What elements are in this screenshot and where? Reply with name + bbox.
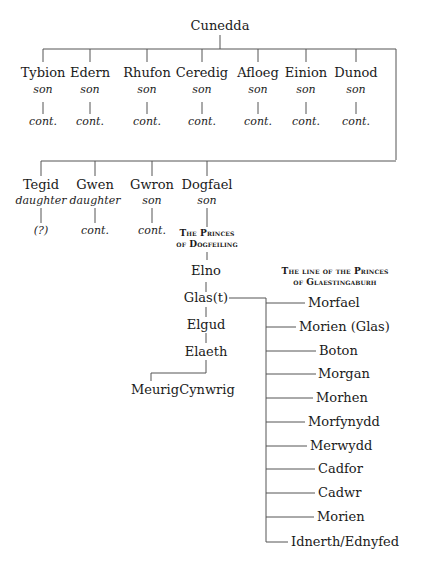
person-name: Idnerth/Ednyfed — [291, 535, 399, 549]
person-name: Elaeth — [185, 345, 228, 359]
person-name: Glas(t) — [184, 291, 228, 305]
person-name: Cynwrig — [179, 383, 235, 397]
continuation-label: cont. — [133, 116, 161, 128]
person-name: Morgan — [318, 367, 370, 381]
person-name: Ceredig — [176, 66, 228, 80]
continuation-label: cont. — [292, 116, 320, 128]
dogfeiling-heading: The Princes of Dogfeiling — [176, 228, 237, 250]
person-name: Gwron — [130, 178, 174, 192]
person-name: Merwydd — [310, 439, 372, 453]
person-name: Afloeg — [237, 66, 279, 80]
continuation-label: (?) — [34, 225, 48, 237]
relation-label: son — [248, 84, 267, 96]
person-name: Cadfor — [318, 462, 363, 476]
person-name: Edern — [70, 66, 110, 80]
heading-line: of Glaestingaburh — [282, 277, 389, 288]
relation-label: son — [192, 84, 211, 96]
continuation-label: cont. — [138, 225, 166, 237]
person-name: Morfael — [308, 296, 360, 310]
relation-label: son — [197, 195, 216, 207]
relation-label: daughter — [16, 195, 67, 207]
relation-label: son — [296, 84, 315, 96]
person-name: Einion — [285, 66, 327, 80]
person-name: Tegid — [23, 178, 59, 192]
person-name: Dogfael — [182, 178, 233, 192]
person-name: Tybion — [21, 66, 66, 80]
person-name: Morien — [317, 510, 365, 524]
glaestingaburh-heading: The line of the Princes of Glaestingabur… — [282, 266, 389, 288]
person-name: Dunod — [334, 66, 377, 80]
relation-label: son — [137, 84, 156, 96]
heading-line: of Dogfeiling — [176, 239, 237, 250]
person-name: Elno — [191, 264, 221, 278]
person-name: Cadwr — [318, 486, 361, 500]
heading-line: The line of the Princes — [282, 266, 389, 277]
person-name: Gwen — [76, 178, 114, 192]
continuation-label: cont. — [76, 116, 104, 128]
person-name: Rhufon — [123, 66, 171, 80]
relation-label: son — [142, 195, 161, 207]
relation-label: daughter — [70, 195, 121, 207]
relation-label: son — [33, 84, 52, 96]
person-name: Elgud — [187, 318, 226, 332]
relation-label: son — [80, 84, 99, 96]
continuation-label: cont. — [29, 116, 57, 128]
relation-label: son — [346, 84, 365, 96]
person-name: Cunedda — [191, 19, 250, 33]
continuation-label: cont. — [81, 225, 109, 237]
person-name: Morien (Glas) — [299, 320, 390, 334]
person-name: Morfynydd — [308, 415, 380, 429]
person-name: Meurig — [131, 383, 179, 397]
person-name: Boton — [319, 344, 358, 358]
heading-line: The Princes — [176, 228, 237, 239]
continuation-label: cont. — [188, 116, 216, 128]
continuation-label: cont. — [342, 116, 370, 128]
continuation-label: cont. — [244, 116, 272, 128]
person-name: Morhen — [316, 391, 368, 405]
